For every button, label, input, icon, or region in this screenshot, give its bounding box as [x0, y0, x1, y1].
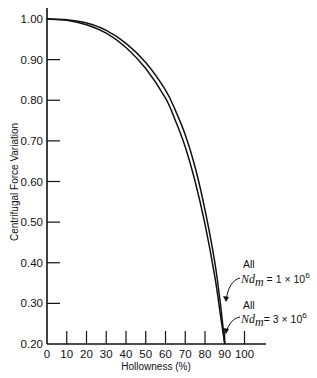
y-tick-label: 0.20: [21, 338, 43, 350]
y-tick-label: 0.60: [21, 176, 43, 188]
annotation-1e6-all: All: [243, 258, 255, 270]
x-tick-label: 100: [235, 348, 254, 360]
x-tick-label: 0: [44, 348, 50, 360]
y-tick-label: 0.70: [21, 135, 43, 147]
y-tick-label: 0.30: [21, 297, 43, 309]
x-ticks: 0102030405060708090100: [44, 331, 254, 360]
x-tick-label: 30: [100, 348, 113, 360]
annotation-3e6: All Ndm= 3 × 106: [223, 299, 307, 334]
x-tick-label: 80: [199, 348, 212, 360]
y-axis-title: Centrifugal Force Variation: [9, 123, 20, 241]
y-tick-label: 1.00: [21, 13, 43, 25]
x-tick-label: 70: [179, 348, 192, 360]
annotation-3e6-all: All: [243, 299, 255, 311]
series-line-1e6: [47, 19, 225, 344]
x-tick-label: 10: [60, 348, 73, 360]
annotation-1e6-formula: Ndm = 1 × 106: [240, 271, 310, 289]
annotation-3e6-formula: Ndm= 3 × 106: [240, 311, 307, 329]
x-tick-label: 20: [80, 348, 93, 360]
x-tick-label: 50: [139, 348, 152, 360]
y-ticks: 1.000.900.800.700.600.500.400.300.20: [21, 13, 60, 350]
y-tick-label: 0.50: [21, 216, 43, 228]
y-tick-label: 0.90: [21, 54, 43, 66]
x-axis-title: Hollowness (%): [121, 361, 190, 372]
y-tick-label: 0.40: [21, 257, 43, 269]
x-tick-label: 60: [159, 348, 172, 360]
x-tick-label: 40: [120, 348, 133, 360]
series: [47, 19, 225, 344]
y-tick-label: 0.80: [21, 94, 43, 106]
chart: 1.000.900.800.700.600.500.400.300.20 010…: [0, 0, 317, 378]
axes: [47, 8, 266, 344]
annotation-1e6-arrow: [226, 278, 240, 300]
annotation-1e6: All Ndm = 1 × 106: [223, 258, 310, 302]
x-tick-label: 90: [218, 348, 231, 360]
